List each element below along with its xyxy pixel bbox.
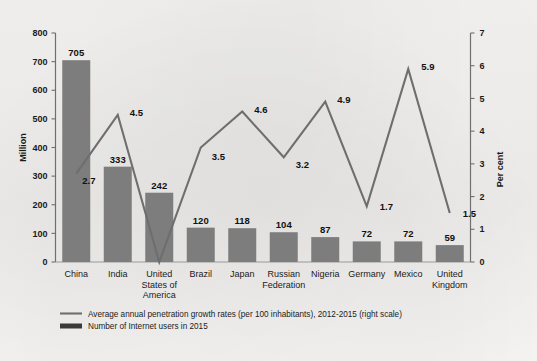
bar: [353, 241, 381, 262]
bar: [187, 228, 215, 262]
right-axis-tick-label: 6: [480, 61, 485, 71]
bar: [104, 167, 132, 262]
category-label: Brazil: [189, 269, 212, 279]
bar-value-label: 120: [193, 215, 209, 226]
line-value-label: 2.7: [82, 175, 95, 186]
line-value-label: 1.7: [380, 201, 393, 212]
left-axis-tick-label: 600: [32, 85, 47, 95]
category-label: United: [146, 269, 172, 279]
right-axis: 01234567Per cent: [471, 28, 506, 267]
bar: [270, 232, 298, 262]
legend-line-label: Average annual penetration growth rates …: [88, 310, 402, 319]
left-axis-tick-label: 0: [42, 257, 47, 267]
left-axis-tick-label: 800: [32, 28, 47, 38]
bar-value-label: 118: [235, 215, 250, 226]
right-axis-tick-label: 5: [480, 94, 485, 104]
category-label: India: [108, 269, 128, 279]
left-axis-tick-label: 700: [32, 57, 47, 67]
category-label: Federation: [262, 280, 305, 290]
right-axis-tick-label: 7: [480, 28, 485, 38]
line-value-label: 4.5: [130, 107, 144, 118]
left-axis-tick-label: 300: [32, 171, 47, 181]
line-value-label: 4.9: [337, 94, 350, 105]
bar-value-label: 72: [403, 228, 414, 239]
category-label: China: [64, 269, 88, 279]
category-label: America: [143, 290, 176, 300]
bar: [311, 237, 339, 262]
right-axis-tick-label: 3: [480, 159, 485, 169]
bar: [394, 241, 422, 262]
bar-value-label: 242: [151, 180, 167, 191]
category-label: Russian: [267, 269, 300, 279]
bar: [228, 228, 256, 262]
right-axis-tick-label: 2: [480, 192, 485, 202]
bar-value-label: 705: [68, 47, 85, 58]
category-label: Germany: [348, 269, 386, 279]
category-label: Mexico: [394, 269, 423, 279]
category-label: Japan: [230, 269, 255, 279]
bar-value-label: 87: [320, 224, 331, 235]
category-label: United: [437, 269, 463, 279]
legend-bar-marker: [60, 324, 82, 329]
bar: [436, 245, 464, 262]
line-value-label: 3.2: [296, 159, 309, 170]
left-axis-tick-label: 500: [32, 114, 47, 124]
legend-bar-label: Number of Internet users in 2015: [88, 322, 208, 331]
right-axis-title: Per cent: [495, 152, 505, 188]
category-labels: ChinaIndiaUnitedStates ofAmericaBrazilJa…: [64, 269, 467, 300]
bar-value-label: 333: [110, 154, 126, 165]
combo-bar-line-chart: 0100200300400500600700800Million 0123456…: [0, 0, 537, 361]
category-label: Kingdom: [432, 280, 468, 290]
left-axis-title: Million: [18, 133, 28, 162]
left-axis-tick-label: 400: [32, 143, 47, 153]
line-value-label: 3.5: [212, 151, 226, 162]
category-label: States of: [141, 280, 177, 290]
left-axis-tick-label: 200: [32, 200, 47, 210]
bar-value-label: 104: [276, 219, 293, 230]
growth-rate-line: [76, 69, 450, 262]
right-axis-tick-label: 1: [480, 224, 485, 234]
line-value-label: 5.9: [421, 61, 434, 72]
right-axis-tick-label: 0: [480, 257, 485, 267]
line-value-label: 1.5: [463, 208, 477, 219]
chart-legend: Average annual penetration growth rates …: [60, 310, 402, 331]
right-axis-tick-label: 4: [480, 126, 485, 136]
left-axis-tick-label: 100: [32, 229, 47, 239]
bar-value-label: 72: [361, 228, 372, 239]
line-value-label: 4.6: [254, 104, 267, 115]
category-label: Nigeria: [311, 269, 340, 279]
bar-value-label: 59: [444, 232, 455, 243]
line-series: [76, 69, 450, 262]
